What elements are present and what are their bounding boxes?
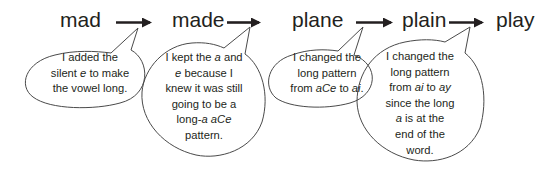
word-plane: plane (292, 8, 343, 32)
note-line: pattern. (152, 128, 256, 144)
note-line: silent e to make (40, 66, 140, 82)
note-line: I kept the a and (152, 50, 256, 66)
note-line: the vowel long. (40, 81, 140, 97)
note-line: e because I (152, 66, 256, 82)
note-line: a is at the (365, 111, 475, 127)
note-line: long-a aCe (152, 112, 256, 128)
note-2: I kept the a ande because Iknew it was s… (152, 50, 256, 144)
note-line: I changed the (275, 50, 379, 66)
note-line: long pattern (275, 66, 379, 82)
note-line: end of the (365, 127, 475, 143)
note-line: word. (365, 143, 475, 159)
note-line: from aCe to ai. (275, 81, 379, 97)
note-1: I added thesilent e to makethe vowel lon… (40, 50, 140, 97)
word-play: play (496, 8, 535, 32)
note-4: I changed thelong patternfrom ai to aysi… (365, 49, 475, 158)
note-line: I changed the (365, 49, 475, 65)
note-line: knew it was still (152, 81, 256, 97)
note-line: from ai to ay (365, 80, 475, 96)
note-line: long pattern (365, 65, 475, 81)
note-line: going to be a (152, 97, 256, 113)
word-mad: mad (60, 8, 101, 32)
note-3: I changed thelong patternfrom aCe to ai. (275, 50, 379, 97)
word-made: made (172, 8, 225, 32)
note-line: I added the (40, 50, 140, 66)
word-plain: plain (402, 8, 446, 32)
note-line: since the long (365, 96, 475, 112)
